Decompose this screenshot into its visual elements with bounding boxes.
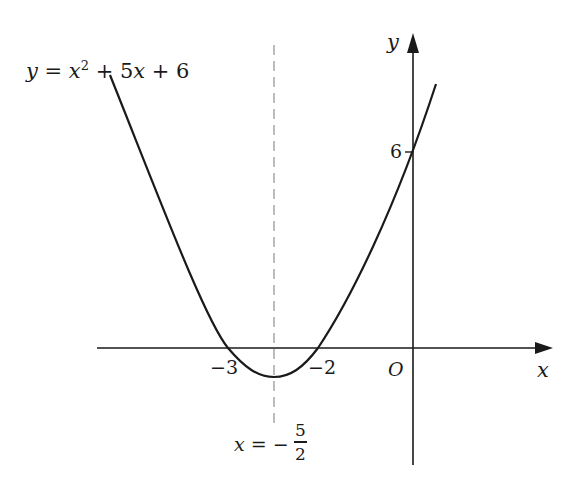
y-axis-arrow-icon <box>407 33 419 53</box>
x-axis-label: x <box>537 358 549 382</box>
y-axis-label: y <box>387 30 399 54</box>
y-tick-label-6: 6 <box>390 140 402 162</box>
equation-label: y = x2 + 5x + 6 <box>26 58 189 83</box>
symmetry-label: x = − <box>234 433 289 455</box>
origin-label: O <box>388 358 404 380</box>
parabola-curve <box>110 75 436 377</box>
x-tick-label-neg3: −3 <box>210 356 238 378</box>
x-tick-label-neg2: −2 <box>308 356 336 378</box>
x-axis-arrow-icon <box>535 342 553 354</box>
symmetry-fraction: 5 2 <box>294 421 307 463</box>
